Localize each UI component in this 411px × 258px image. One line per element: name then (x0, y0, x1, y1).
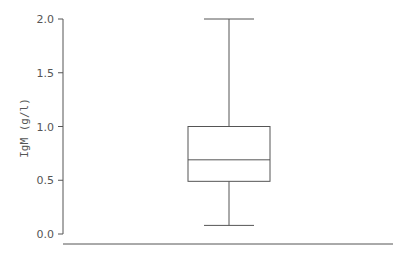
y-tick-label: 1.0 (37, 121, 55, 134)
box-group (188, 19, 270, 225)
y-axis-label: IgM (g/l) (18, 98, 31, 158)
box-plot-chart: 0.00.51.01.52.0 IgM (g/l) (0, 0, 411, 258)
y-axis: 0.00.51.01.52.0 (37, 13, 64, 241)
y-tick-label: 0.5 (37, 174, 55, 187)
y-tick-label: 2.0 (37, 13, 55, 26)
y-tick-label: 1.5 (37, 67, 55, 80)
iqr-box (188, 127, 270, 182)
y-tick-label: 0.0 (37, 228, 55, 241)
